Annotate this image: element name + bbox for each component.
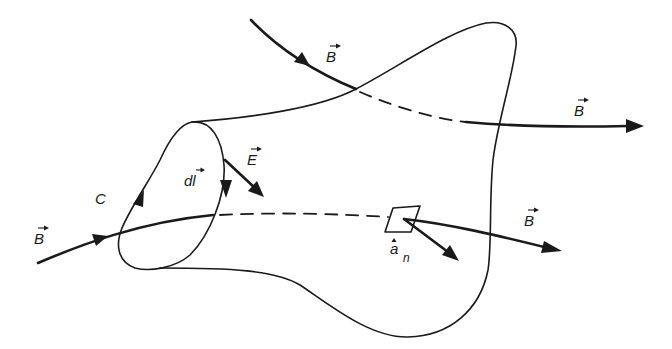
b-field-top-hidden bbox=[360, 92, 465, 122]
label-e-field: E bbox=[247, 147, 262, 169]
surface-outline bbox=[160, 22, 516, 337]
label-normal-an: a n bbox=[390, 238, 410, 265]
faraday-surface-diagram: B B B B C dl E a n bbox=[0, 0, 672, 349]
b-field-right-arrow-icon bbox=[541, 241, 562, 253]
normal-vector-arrow-head-icon bbox=[442, 245, 459, 261]
label-b-left-in: B bbox=[34, 226, 49, 248]
contour-c-arrow-icon bbox=[133, 190, 144, 207]
label-dl: dl bbox=[184, 168, 205, 190]
svg-text:dl: dl bbox=[184, 172, 196, 189]
svg-text:n: n bbox=[403, 251, 410, 265]
svg-text:E: E bbox=[247, 151, 258, 168]
svg-text:B: B bbox=[326, 48, 336, 65]
svg-text:B: B bbox=[574, 102, 584, 119]
label-b-top-in: B bbox=[326, 44, 341, 66]
svg-text:a: a bbox=[390, 240, 398, 257]
b-field-top-out-arrow-icon bbox=[626, 119, 644, 133]
b-field-top-out bbox=[466, 122, 628, 127]
label-b-top-out: B bbox=[574, 98, 589, 120]
svg-text:B: B bbox=[524, 212, 534, 229]
label-contour-c: C bbox=[95, 190, 106, 207]
svg-text:B: B bbox=[34, 230, 44, 247]
b-field-left-arrow-icon bbox=[92, 234, 108, 246]
contour-c bbox=[118, 122, 224, 270]
b-field-left-hidden bbox=[220, 214, 388, 217]
label-b-right-out: B bbox=[524, 208, 539, 230]
b-field-top-in bbox=[251, 20, 356, 89]
